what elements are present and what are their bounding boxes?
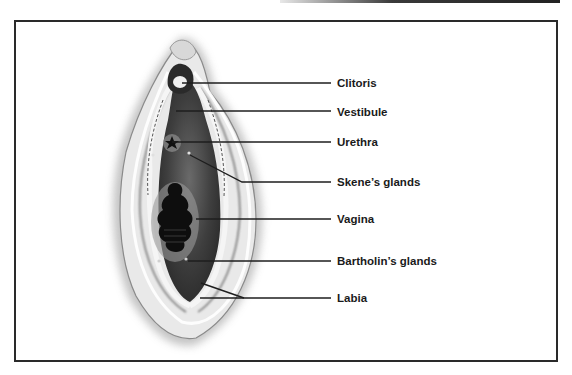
label-skenes-glands: Skene’s glands <box>337 175 420 189</box>
label-vagina: Vagina <box>337 212 374 226</box>
label-labia: Labia <box>337 291 367 305</box>
label-clitoris: Clitoris <box>337 76 377 90</box>
vaginal-opening <box>151 182 199 262</box>
label-bartholins-glands: Bartholin’s glands <box>337 254 437 268</box>
label-vestibule: Vestibule <box>337 105 388 119</box>
anatomy-illustration <box>0 0 572 375</box>
label-urethra: Urethra <box>337 135 378 149</box>
urethra-shape <box>163 134 181 152</box>
